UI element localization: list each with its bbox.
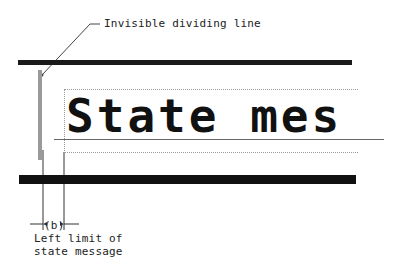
dimension-b-label: (b) — [44, 219, 64, 232]
state-message-text: State mes — [66, 88, 386, 144]
left-limit-label-line2: state message — [34, 245, 123, 258]
invisible-dividing-line-label: Invisible dividing line — [104, 17, 261, 30]
top-separator-bar — [18, 60, 352, 65]
bottom-separator-bar — [19, 175, 356, 184]
text-baseline — [54, 139, 384, 140]
left-limit-label-line1: Left limit of — [34, 232, 123, 245]
invisible-dividing-line — [38, 70, 42, 160]
